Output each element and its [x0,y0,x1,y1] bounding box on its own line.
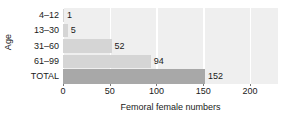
bars-layer: 1 5 52 94 152 [63,8,278,84]
plot-area: 1 5 52 94 152 [63,8,278,84]
bar [63,69,205,84]
bar-row: 52 [63,38,278,53]
bar-value-label: 152 [208,72,223,81]
y-tick-label: 13–30 [14,23,62,38]
x-axis: 050100150200 [63,84,278,100]
y-tick-label: 61–99 [14,54,62,69]
x-tick-label: 50 [105,87,115,96]
x-tick-label: 100 [149,87,164,96]
bar-value-label: 94 [154,57,164,66]
x-tick-label: 0 [60,87,65,96]
bar-row: 5 [63,23,278,38]
bar-row: 94 [63,54,278,69]
bar-value-label: 1 [67,11,72,20]
bar [63,39,112,52]
bar [63,55,151,68]
y-tick-label: 31–60 [14,38,62,53]
y-tick-label: TOTAL [14,69,62,84]
x-axis-title: Femoral female numbers [63,102,278,112]
bar-row: 1 [63,8,278,23]
x-tick-label: 150 [196,87,211,96]
y-axis-title-text: Age [3,34,13,50]
bar [63,24,68,37]
bar-chart-figure: Age 4–12 13–30 31–60 61–99 TOTAL 1 5 52 [0,0,292,122]
bar-value-label: 52 [115,42,125,51]
bar-value-label: 5 [71,26,76,35]
y-tick-label: 4–12 [14,8,62,23]
bar [63,9,64,22]
bar-row: 152 [63,69,278,84]
y-axis-tick-labels: 4–12 13–30 31–60 61–99 TOTAL [14,8,62,84]
x-tick-label: 200 [242,87,257,96]
